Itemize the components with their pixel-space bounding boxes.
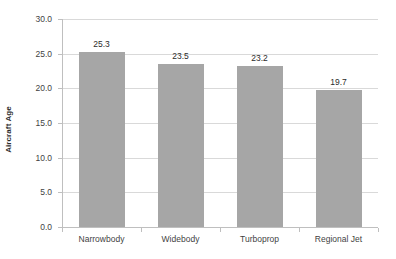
bar-chart: Aircraft Age 0.05.010.015.020.025.030.02… [0, 0, 396, 259]
gridline [62, 19, 378, 20]
bar-value-label: 25.3 [93, 39, 110, 49]
y-axis-tick-label: 5.0 [12, 187, 52, 197]
y-axis-tick-label: 15.0 [12, 118, 52, 128]
bar [237, 66, 283, 227]
y-axis-tick-mark [58, 19, 62, 20]
bar [158, 64, 204, 227]
bar [79, 52, 125, 227]
x-axis-category-label: Widebody [162, 234, 200, 244]
x-axis-tick-mark [141, 228, 142, 232]
y-axis-line [62, 19, 63, 228]
y-axis-tick-label: 30.0 [12, 14, 52, 24]
y-axis-tick-label: 25.0 [12, 49, 52, 59]
y-axis-tick-label: 0.0 [12, 222, 52, 232]
bar-value-label: 19.7 [330, 77, 347, 87]
y-axis-title-label: Aircraft Age [4, 106, 13, 153]
y-axis-tick-mark [58, 123, 62, 124]
x-axis-tick-mark [62, 228, 63, 232]
x-axis-tick-mark [378, 228, 379, 232]
plot-area [62, 19, 378, 227]
y-axis-tick-mark [58, 192, 62, 193]
x-axis-category-label: Turboprop [240, 234, 279, 244]
x-axis-category-label: Regional Jet [315, 234, 362, 244]
y-axis-title: Aircraft Age [0, 0, 16, 259]
y-axis-tick-mark [58, 54, 62, 55]
y-axis-tick-mark [58, 158, 62, 159]
bar-value-label: 23.5 [172, 51, 189, 61]
bar-value-label: 23.2 [251, 53, 268, 63]
y-axis-tick-label: 10.0 [12, 153, 52, 163]
x-axis-category-label: Narrowbody [79, 234, 125, 244]
x-axis-tick-mark [299, 228, 300, 232]
y-axis-tick-label: 20.0 [12, 83, 52, 93]
bar [316, 90, 362, 227]
y-axis-tick-mark [58, 88, 62, 89]
x-axis-tick-mark [220, 228, 221, 232]
